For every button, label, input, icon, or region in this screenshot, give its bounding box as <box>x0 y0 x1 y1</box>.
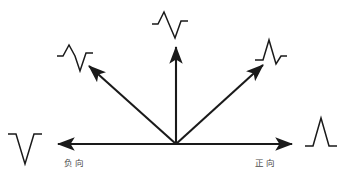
waveform-predominantly-negative <box>57 45 93 71</box>
waveform-fully-negative-trace <box>8 134 42 164</box>
waveform-predominantly-negative-trace <box>57 45 93 71</box>
arrow-layer <box>58 47 292 144</box>
waveform-fully-positive-trace <box>305 118 337 146</box>
waveform-fully-negative <box>8 134 42 164</box>
waveform-predominantly-positive-trace <box>255 40 287 64</box>
polarity-vector-diagram: 负向 正向 <box>0 0 348 184</box>
waveform-fully-positive <box>305 118 337 146</box>
waveform-biphasic-trace <box>152 12 188 38</box>
positive-direction-label: 正向 <box>255 158 276 168</box>
waveform-biphasic <box>152 12 188 38</box>
upper-left-diagonal-arrow <box>89 66 176 144</box>
waveform-predominantly-positive <box>255 40 287 64</box>
negative-direction-label: 负向 <box>64 158 85 168</box>
upper-right-diagonal-arrow <box>176 65 263 144</box>
